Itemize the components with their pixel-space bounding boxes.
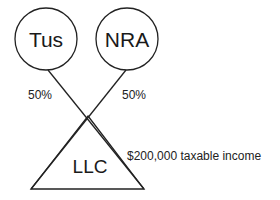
nra-label: NRA [105, 28, 149, 51]
tus-label: Tus [29, 28, 63, 51]
llc-label: LLC [73, 156, 108, 177]
tus-ownership-pct: 50% [28, 88, 52, 102]
nra-ownership-pct: 50% [122, 88, 146, 102]
ownership-diagram: Tus NRA 50% 50% LLC $200,000 taxable inc… [0, 0, 280, 200]
taxable-income-label: $200,000 taxable income [127, 149, 261, 163]
